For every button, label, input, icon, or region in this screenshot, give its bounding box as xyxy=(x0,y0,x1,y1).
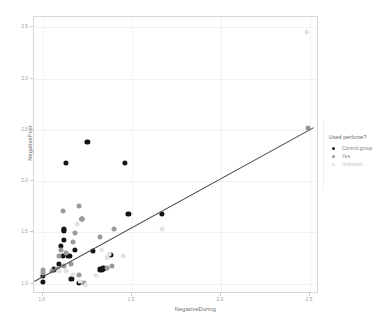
gridline-vertical xyxy=(43,17,44,292)
legend-item[interactable]: Control group xyxy=(329,144,389,152)
data-point xyxy=(160,227,165,232)
gridline-vertical xyxy=(221,17,222,292)
data-point xyxy=(64,250,69,255)
x-tick-label: 1.5 xyxy=(128,297,135,302)
legend-title: Used perfume? xyxy=(329,134,389,140)
x-tick-mark xyxy=(220,293,221,296)
data-point xyxy=(85,140,90,145)
y-tick-label: 3.5 xyxy=(16,24,28,29)
data-point xyxy=(105,266,110,271)
legend-items: Control groupYesUnknown xyxy=(329,144,389,168)
data-point xyxy=(60,208,65,213)
data-point xyxy=(80,217,85,222)
data-point xyxy=(76,203,81,208)
x-tick-mark xyxy=(131,293,132,296)
legend: Used perfume? Control groupYesUnknown xyxy=(329,134,389,168)
x-tick-mark xyxy=(42,293,43,296)
gridline-horizontal xyxy=(34,79,317,80)
gridline-vertical xyxy=(310,17,311,292)
x-tick-mark xyxy=(309,293,310,296)
data-point xyxy=(121,254,126,259)
data-point xyxy=(122,160,127,165)
legend-divider xyxy=(323,120,324,190)
data-point xyxy=(126,211,131,216)
y-tick-label: 2.0 xyxy=(16,178,28,183)
x-tick-label: 1.0 xyxy=(39,297,46,302)
plot-area xyxy=(33,16,318,293)
data-point xyxy=(71,272,76,277)
x-axis-title: NegativeDuring xyxy=(0,306,391,312)
data-point xyxy=(72,247,77,252)
y-tick-label: 1.5 xyxy=(16,229,28,234)
y-tick-mark xyxy=(30,180,33,181)
y-tick-mark xyxy=(30,231,33,232)
data-point xyxy=(71,239,76,244)
x-tick-label: 2.0 xyxy=(217,297,224,302)
data-point xyxy=(78,279,83,284)
y-tick-label: 3.0 xyxy=(16,75,28,80)
legend-marker-icon xyxy=(332,155,335,158)
data-point xyxy=(63,160,68,165)
x-tick-label: 2.5 xyxy=(306,297,313,302)
data-point xyxy=(110,264,115,269)
data-point xyxy=(58,247,63,252)
legend-marker-icon xyxy=(332,147,335,150)
y-tick-mark xyxy=(30,78,33,79)
y-axis-title: NegativePost xyxy=(27,125,33,161)
data-point xyxy=(94,273,99,278)
data-point xyxy=(72,231,77,236)
y-tick-mark xyxy=(30,283,33,284)
data-point xyxy=(74,222,79,227)
data-point xyxy=(57,269,62,274)
legend-item[interactable]: Unknown xyxy=(329,160,389,168)
legend-item-label: Yes xyxy=(342,154,350,159)
gridline-horizontal xyxy=(34,181,317,182)
gridline-horizontal xyxy=(34,130,317,131)
gridline-vertical xyxy=(132,17,133,292)
scatter-plot-figure: 1.01.52.02.5 1.01.52.02.53.03.5 Negative… xyxy=(0,0,391,325)
data-point xyxy=(62,237,67,242)
legend-item[interactable]: Yes xyxy=(329,152,389,160)
y-tick-label: 1.0 xyxy=(16,280,28,285)
data-point xyxy=(64,269,69,274)
data-point xyxy=(99,247,104,252)
data-point xyxy=(112,227,117,232)
gridline-horizontal xyxy=(34,27,317,28)
data-point xyxy=(56,254,61,259)
data-point xyxy=(76,272,81,277)
legend-item-label: Control group xyxy=(342,146,372,151)
legend-marker-icon xyxy=(332,163,335,166)
data-point xyxy=(83,282,88,287)
data-point xyxy=(97,234,102,239)
data-point xyxy=(105,256,110,261)
data-point xyxy=(106,252,111,257)
data-point xyxy=(304,30,309,35)
y-tick-mark xyxy=(30,26,33,27)
legend-item-label: Unknown xyxy=(342,162,363,167)
